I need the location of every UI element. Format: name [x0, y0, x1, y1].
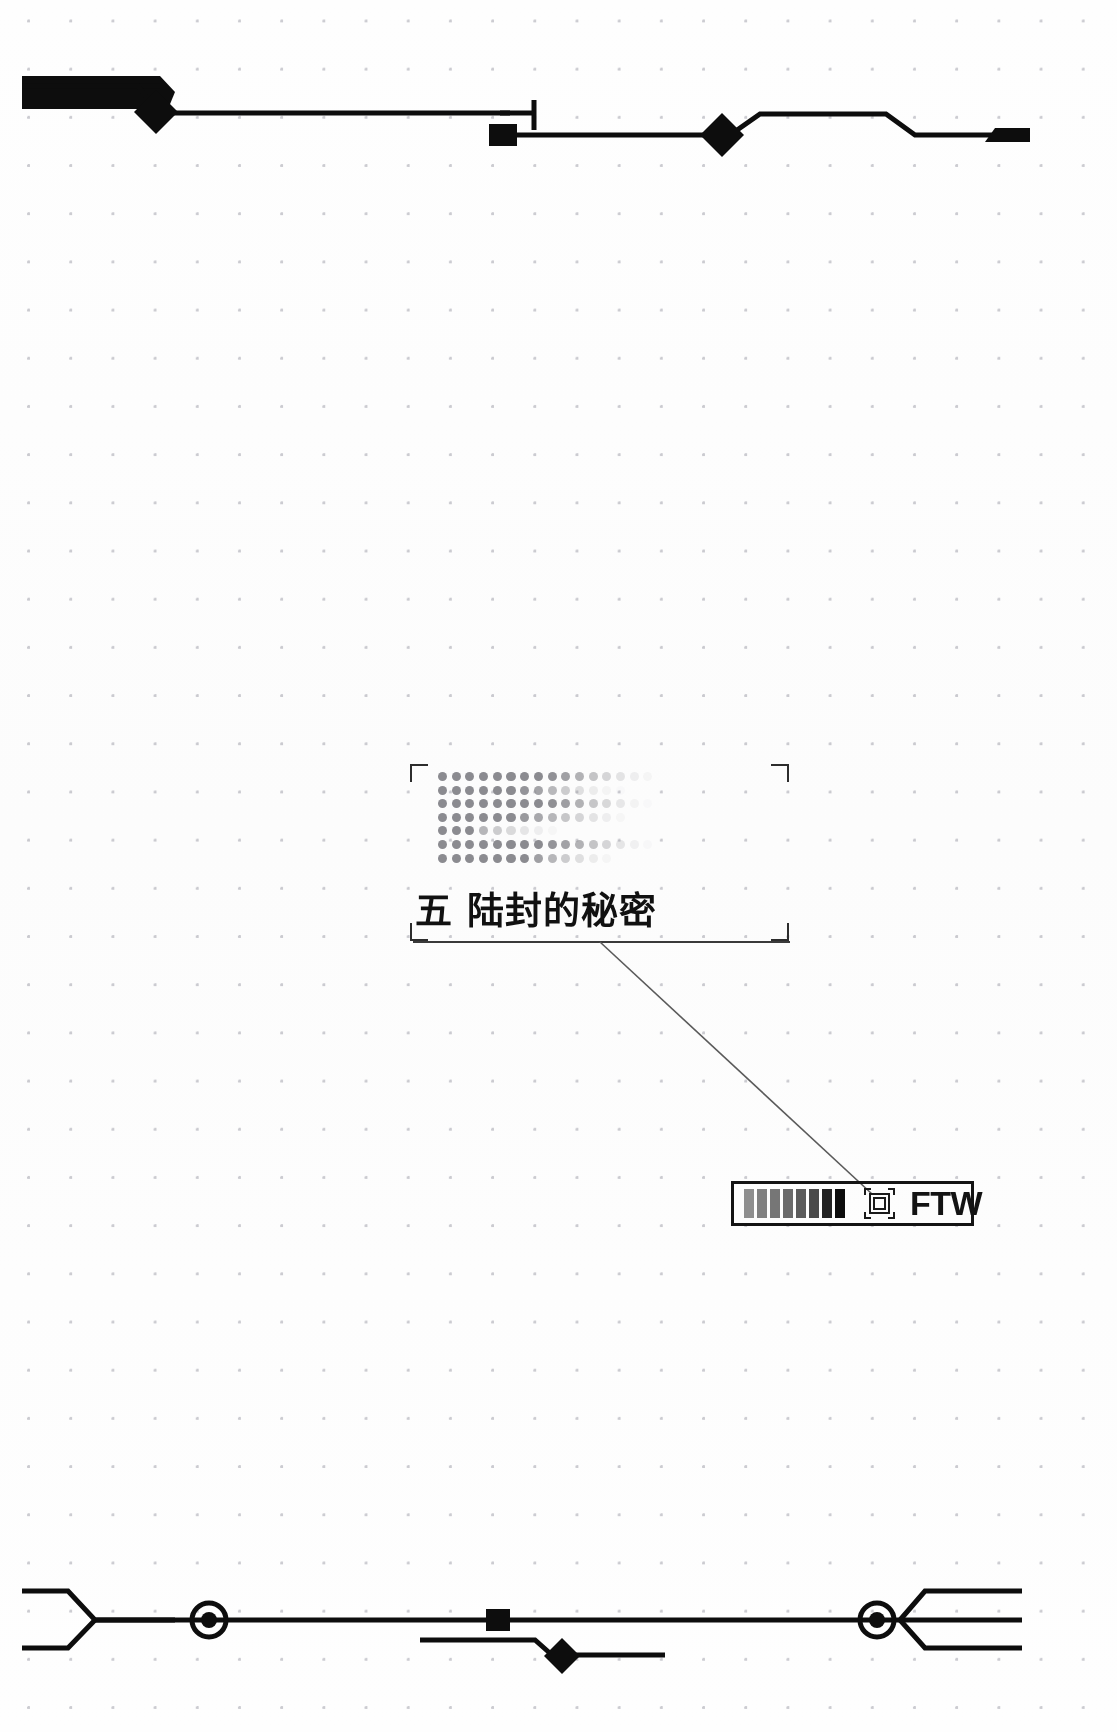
badge-bar — [744, 1189, 754, 1218]
halftone-dot — [479, 799, 488, 808]
halftone-dot — [438, 826, 447, 835]
halftone-dot — [616, 813, 625, 822]
halftone-dot — [479, 813, 488, 822]
halftone-dot — [506, 854, 515, 863]
halftone-dot — [506, 799, 515, 808]
halftone-dot — [575, 840, 584, 849]
halftone-dot — [438, 813, 447, 822]
corner-bracket-bottom-right — [771, 923, 789, 941]
halftone-dot — [479, 772, 488, 781]
page-title: 五 陆封的秘密 — [415, 893, 657, 930]
halftone-dot — [643, 772, 652, 781]
halftone-dot — [534, 826, 543, 835]
bottom-ring-node-left — [192, 1603, 226, 1637]
halftone-row — [438, 799, 670, 813]
halftone-dot — [616, 799, 625, 808]
top-diamond-left — [134, 90, 178, 134]
halftone-dot — [548, 854, 557, 863]
badge-bar — [809, 1189, 819, 1218]
halftone-dot — [493, 772, 502, 781]
halftone-dot — [479, 854, 488, 863]
title-underline-rule — [413, 941, 790, 943]
halftone-dot — [506, 813, 515, 822]
badge-rail-bottom — [741, 1223, 964, 1226]
halftone-dot — [575, 786, 584, 795]
top-diamond-right — [700, 113, 744, 157]
halftone-dot — [643, 840, 652, 849]
halftone-dot — [602, 854, 611, 863]
halftone-dot — [561, 786, 570, 795]
ftw-badge[interactable]: FTW — [731, 1181, 974, 1226]
badge-label: FTW — [910, 1185, 982, 1222]
halftone-dot — [452, 854, 461, 863]
halftone-dot — [520, 826, 529, 835]
halftone-dot — [602, 813, 611, 822]
halftone-dot — [534, 854, 543, 863]
halftone-dot — [520, 813, 529, 822]
halftone-dot — [493, 826, 502, 835]
halftone-dot — [452, 786, 461, 795]
badge-bar — [770, 1189, 780, 1218]
halftone-dot — [548, 813, 557, 822]
halftone-dot — [493, 854, 502, 863]
halftone-dot — [493, 786, 502, 795]
halftone-dot — [438, 854, 447, 863]
halftone-dot — [452, 772, 461, 781]
halftone-dot — [465, 826, 474, 835]
halftone-dot — [438, 799, 447, 808]
halftone-dot — [534, 772, 543, 781]
halftone-dot — [548, 786, 557, 795]
halftone-dot — [534, 813, 543, 822]
halftone-dot — [520, 840, 529, 849]
halftone-dot — [520, 799, 529, 808]
halftone-dot — [452, 813, 461, 822]
badge-bar — [835, 1189, 845, 1218]
halftone-dot — [575, 772, 584, 781]
bottom-square-node — [486, 1609, 510, 1631]
halftone-dot — [479, 840, 488, 849]
halftone-dot — [548, 840, 557, 849]
top-block-left — [489, 124, 517, 146]
halftone-dot — [616, 772, 625, 781]
badge-bar — [796, 1189, 806, 1218]
halftone-dot — [602, 772, 611, 781]
halftone-row — [438, 826, 670, 840]
halftone-dot — [575, 854, 584, 863]
badge-gradient-bars — [744, 1189, 848, 1218]
halftone-row — [438, 786, 670, 800]
badge-bar — [822, 1189, 832, 1218]
halftone-dot — [561, 840, 570, 849]
halftone-dot — [589, 854, 598, 863]
bottom-ring-node-right — [860, 1603, 894, 1637]
halftone-dot — [465, 813, 474, 822]
halftone-dot — [630, 840, 639, 849]
halftone-dot — [575, 799, 584, 808]
halftone-dot — [493, 799, 502, 808]
target-square-icon — [864, 1188, 895, 1219]
halftone-row — [438, 854, 670, 868]
halftone-dot — [506, 826, 515, 835]
halftone-dot — [506, 772, 515, 781]
halftone-dot — [465, 854, 474, 863]
badge-bar — [783, 1189, 793, 1218]
halftone-dot — [589, 840, 598, 849]
halftone-dot — [452, 799, 461, 808]
badge-bar — [757, 1189, 767, 1218]
halftone-dot — [438, 786, 447, 795]
corner-bracket-top-right — [771, 764, 789, 782]
bottom-diamond — [544, 1638, 580, 1674]
halftone-dot — [493, 840, 502, 849]
halftone-dot — [506, 840, 515, 849]
halftone-row — [438, 813, 670, 827]
halftone-dot — [465, 840, 474, 849]
halftone-dot — [561, 854, 570, 863]
halftone-dot — [575, 813, 584, 822]
halftone-row — [438, 772, 670, 786]
halftone-dot — [548, 772, 557, 781]
halftone-dot — [493, 813, 502, 822]
halftone-dot — [534, 840, 543, 849]
halftone-dot — [534, 799, 543, 808]
halftone-dot — [479, 786, 488, 795]
halftone-dot — [465, 772, 474, 781]
halftone-dot — [616, 786, 625, 795]
